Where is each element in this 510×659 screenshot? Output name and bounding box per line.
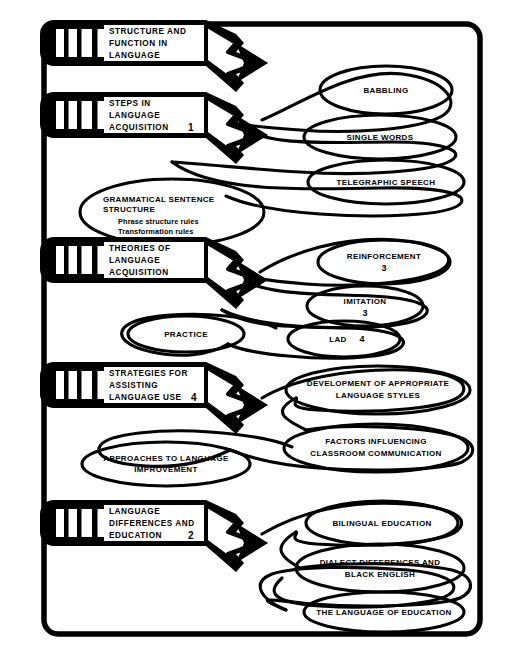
bubble-development-line1: DEVELOPMENT OF APPROPRIATE: [307, 379, 450, 388]
bubble-lad-number: 4: [359, 334, 364, 344]
bubble-practice[interactable]: PRACTICE: [128, 316, 244, 352]
bubble-imitation-label: IMITATION: [344, 297, 387, 306]
bubble-factors-classroom-communication[interactable]: FACTORS INFLUENCING CLASSROOM COMMUNICAT…: [284, 424, 468, 472]
bubble-grammatical-sentence-structure[interactable]: GRAMMATICAL SENTENCE STRUCTURE Phrase st…: [80, 179, 264, 245]
bubble-development-line2: LANGUAGE STYLES: [336, 391, 421, 400]
bubble-reinforcement-label: REINFORCEMENT: [347, 252, 421, 261]
bubble-reinforcement-number: 3: [381, 263, 386, 273]
pencil-2-line-1: STEPS IN: [109, 99, 151, 108]
bubble-bilingual-education[interactable]: BILINGUAL EDUCATION: [306, 501, 458, 545]
bubble-approaches-language-improvement[interactable]: APPROACHES TO LANGUAGE IMPROVEMENT: [82, 442, 250, 486]
bubble-imitation[interactable]: IMITATION 3: [307, 286, 423, 326]
pencil-4-line-2: ASSISTING: [109, 381, 158, 390]
pencil-1-line-2: FUNCTION IN: [109, 39, 168, 48]
pencil-3-line-3: ACQUISITION: [109, 268, 169, 277]
pencil-1-line-3: LANGUAGE: [109, 51, 160, 60]
pencil-3-line-1: THEORIES OF: [109, 244, 171, 253]
pencil-structure-and-function-in-language[interactable]: STRUCTURE AND FUNCTION IN LANGUAGE: [40, 20, 268, 92]
bubble-grammatical-sub-2: Transformation rules: [118, 227, 194, 236]
bubble-telegraphic-speech[interactable]: TELEGRAPHIC SPEECH: [308, 160, 464, 204]
pencil-5-line-2: DIFFERENCES AND: [109, 519, 195, 528]
pencil-4-line-3: LANGUAGE USE: [109, 393, 182, 402]
diagram-canvas: BABBLING SINGLE WORDS TELEGRAPHIC SPEECH…: [0, 0, 510, 659]
bubble-grammatical-sub-1: Phrase structure rules: [118, 217, 199, 226]
bubble-approaches-line2: IMPROVEMENT: [134, 465, 197, 474]
bubble-telegraphic-speech-label: TELEGRAPHIC SPEECH: [337, 178, 436, 187]
bubble-lad-label: LAD: [329, 335, 347, 344]
pencil-5-number: 2: [188, 530, 194, 541]
bubble-approaches-line1: APPROACHES TO LANGUAGE: [103, 454, 229, 463]
bubble-babbling-label: BABBLING: [363, 86, 408, 95]
bubble-development-language-styles[interactable]: DEVELOPMENT OF APPROPRIATE LANGUAGE STYL…: [286, 366, 470, 414]
bubble-babbling[interactable]: BABBLING: [320, 66, 452, 114]
pencil-language-differences-and-education[interactable]: LANGUAGE DIFFERENCES AND EDUCATION 2: [40, 500, 268, 572]
pencil-strategies-for-assisting-language-use[interactable]: STRATEGIES FOR ASSISTING LANGUAGE USE 4: [40, 362, 268, 434]
pencil-2-line-2: LANGUAGE: [109, 111, 160, 120]
pencil-steps-in-language-acquisition[interactable]: STEPS IN LANGUAGE ACQUISITION 1: [40, 92, 268, 164]
pencil-theories-of-language-acquisition[interactable]: THEORIES OF LANGUAGE ACQUISITION: [40, 237, 268, 309]
bubble-grammatical-heading-line2: STRUCTURE: [103, 205, 155, 214]
bubble-imitation-number: 3: [362, 308, 367, 318]
bubble-practice-label: PRACTICE: [164, 330, 208, 339]
pencil-5-line-1: LANGUAGE: [109, 507, 160, 516]
bubble-dialect-line1: DIALECT DIFFERENCES AND: [320, 558, 441, 567]
bubble-grammatical-heading-line1: GRAMMATICAL SENTENCE: [103, 195, 215, 204]
bubble-factors-line2: CLASSROOM COMMUNICATION: [310, 449, 441, 458]
pencil-5-line-3: EDUCATION: [109, 531, 162, 540]
bubble-single-words[interactable]: SINGLE WORDS: [304, 115, 456, 159]
pencil-1-line-1: STRUCTURE AND: [109, 27, 186, 36]
bubble-language-of-education[interactable]: THE LANGUAGE OF EDUCATION: [304, 592, 464, 632]
bubble-factors-line1: FACTORS INFLUENCING: [325, 437, 427, 446]
pencil-4-number: 4: [191, 392, 197, 403]
pencil-2-number: 1: [188, 122, 194, 133]
bubble-reinforcement[interactable]: REINFORCEMENT 3: [318, 240, 450, 284]
pencil-3-line-2: LANGUAGE: [109, 256, 160, 265]
concept-map-svg: BABBLING SINGLE WORDS TELEGRAPHIC SPEECH…: [0, 0, 510, 659]
bubble-single-words-label: SINGLE WORDS: [347, 133, 414, 142]
pencil-2-line-3: ACQUISITION: [109, 123, 169, 132]
pencil-4-line-1: STRATEGIES FOR: [109, 369, 188, 378]
bubble-dialect-line2: BLACK ENGLISH: [345, 570, 415, 579]
bubble-language-of-education-label: THE LANGUAGE OF EDUCATION: [316, 608, 451, 617]
bubble-bilingual-label: BILINGUAL EDUCATION: [332, 519, 431, 528]
